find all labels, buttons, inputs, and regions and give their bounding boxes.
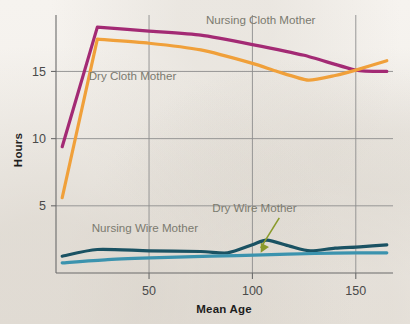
x-tick-label: 100 — [242, 284, 263, 298]
annotation-group — [261, 218, 280, 253]
series-label: Nursing Cloth Mother — [206, 13, 316, 26]
y-tick-label: 10 — [32, 132, 46, 146]
chart-figure: 5101550100150 Nursing Cloth MotherDry Cl… — [0, 0, 410, 324]
x-axis-title: Mean Age — [196, 303, 252, 315]
gridlines — [56, 15, 393, 273]
x-tick-label: 150 — [345, 284, 366, 298]
series-label: Dry Wire Mother — [212, 201, 297, 214]
series-label: Dry Cloth Mother — [89, 69, 177, 82]
series-labels: Nursing Cloth MotherDry Cloth MotherNurs… — [89, 13, 316, 234]
series-line — [62, 253, 387, 263]
y-tick-label: 15 — [32, 65, 46, 79]
x-tick-label: 50 — [142, 284, 156, 298]
y-tick-label: 5 — [39, 199, 46, 213]
y-axis-title: Hours — [12, 133, 24, 167]
series-line — [62, 27, 387, 147]
axes — [56, 15, 393, 273]
series-line — [62, 39, 387, 198]
line-chart-canvas: 5101550100150 Nursing Cloth MotherDry Cl… — [0, 0, 410, 324]
annotation-arrow-head — [261, 243, 269, 253]
axis-ticks: 5101550100150 — [32, 65, 366, 298]
series-label: Nursing Wire Mother — [92, 221, 198, 234]
